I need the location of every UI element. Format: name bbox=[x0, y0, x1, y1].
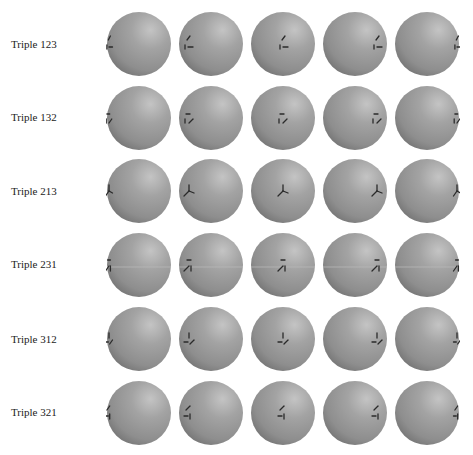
sphere-surface bbox=[107, 233, 171, 297]
sphere-surface bbox=[395, 159, 459, 223]
sphere-surface bbox=[323, 233, 387, 297]
sphere-surface bbox=[107, 307, 171, 371]
sphere-312-1 bbox=[106, 306, 172, 372]
sphere-312-2 bbox=[178, 306, 244, 372]
row-triple-132: Triple 132 bbox=[0, 82, 473, 154]
sphere-123-1 bbox=[106, 11, 172, 77]
row-label: Triple 321 bbox=[11, 405, 57, 419]
sphere-231-2 bbox=[178, 232, 244, 298]
sphere-213-2 bbox=[178, 158, 244, 224]
sphere-surface bbox=[107, 159, 171, 223]
sphere-123-2 bbox=[178, 11, 244, 77]
sphere-surface bbox=[395, 12, 459, 76]
sphere-231-1 bbox=[106, 232, 172, 298]
sphere-312-4 bbox=[322, 306, 388, 372]
sphere-surface bbox=[395, 86, 459, 150]
sphere-surface bbox=[179, 12, 243, 76]
sphere-surface bbox=[251, 307, 315, 371]
sphere-321-2 bbox=[178, 380, 244, 446]
row-triple-213: Triple 213 bbox=[0, 155, 473, 227]
sphere-surface bbox=[395, 381, 459, 445]
sphere-surface bbox=[251, 12, 315, 76]
sphere-132-3 bbox=[250, 85, 316, 151]
cropped-top-edge bbox=[0, 0, 473, 4]
sphere-321-5 bbox=[394, 380, 460, 446]
sphere-surface bbox=[323, 86, 387, 150]
sphere-surface bbox=[107, 86, 171, 150]
sphere-surface bbox=[395, 233, 459, 297]
sphere-123-3 bbox=[250, 11, 316, 77]
sphere-surface bbox=[179, 86, 243, 150]
sphere-312-3 bbox=[250, 306, 316, 372]
row-label: Triple 123 bbox=[11, 37, 57, 51]
row-label: Triple 312 bbox=[11, 332, 57, 346]
sphere-231-5 bbox=[394, 232, 460, 298]
sphere-surface bbox=[107, 381, 171, 445]
sphere-surface bbox=[251, 381, 315, 445]
sphere-231-3 bbox=[250, 232, 316, 298]
sphere-213-5 bbox=[394, 158, 460, 224]
sphere-surface bbox=[179, 233, 243, 297]
sphere-312-5 bbox=[394, 306, 460, 372]
row-triple-123: Triple 123 bbox=[0, 8, 473, 80]
row-label: Triple 231 bbox=[11, 257, 57, 271]
row-triple-321: Triple 321 bbox=[0, 377, 473, 449]
sphere-321-3 bbox=[250, 380, 316, 446]
sphere-231-4 bbox=[322, 232, 388, 298]
sphere-213-1 bbox=[106, 158, 172, 224]
sphere-132-2 bbox=[178, 85, 244, 151]
sphere-surface bbox=[323, 307, 387, 371]
sphere-123-4 bbox=[322, 11, 388, 77]
row-triple-312: Triple 312 bbox=[0, 303, 473, 375]
sphere-surface bbox=[323, 12, 387, 76]
sphere-132-4 bbox=[322, 85, 388, 151]
row-label: Triple 132 bbox=[11, 110, 57, 124]
sphere-surface bbox=[179, 381, 243, 445]
sphere-213-3 bbox=[250, 158, 316, 224]
sphere-surface bbox=[107, 12, 171, 76]
sphere-surface bbox=[251, 233, 315, 297]
sphere-surface bbox=[251, 86, 315, 150]
sphere-132-5 bbox=[394, 85, 460, 151]
sphere-surface bbox=[395, 307, 459, 371]
sphere-132-1 bbox=[106, 85, 172, 151]
sphere-surface bbox=[179, 307, 243, 371]
sphere-321-1 bbox=[106, 380, 172, 446]
row-triple-231: Triple 231 bbox=[0, 229, 473, 301]
sphere-213-4 bbox=[322, 158, 388, 224]
sphere-surface bbox=[323, 381, 387, 445]
row-label: Triple 213 bbox=[11, 184, 57, 198]
sphere-321-4 bbox=[322, 380, 388, 446]
sphere-123-5 bbox=[394, 11, 460, 77]
